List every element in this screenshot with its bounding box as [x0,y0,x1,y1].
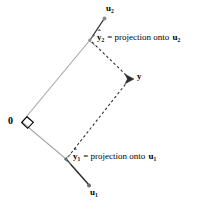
label-u1-subscript: 1 [95,192,98,198]
point-yhat1 [64,157,67,160]
projection-diagram: u2 u1 0 y ̂y2= projection ontou2 ̂y1= pr… [0,0,204,211]
point-u2-endpoint [103,17,107,21]
yhat1-hat-variable: ̂y [73,152,78,161]
label-yhat2-equation: ̂y2= projection ontou2 [97,33,180,43]
dashed-line-yhat2-to-y [92,42,128,77]
point-yhat2 [89,39,92,42]
yhat2-hat-variable: ̂y [97,33,102,42]
label-y: y [137,72,142,81]
label-yhat1-equation: ̂y1= projection ontou1 [73,152,156,162]
label-origin: 0 [8,116,13,126]
label-u1: u1 [90,188,98,198]
yhat1-onto-subscript: 1 [153,156,156,162]
axis-line-u2 [22,40,90,122]
dashed-line-yhat1-to-y [68,81,128,157]
label-u2-subscript: 2 [111,8,114,14]
yhat2-onto-subscript: 2 [177,37,180,43]
arrowhead-y [125,74,134,84]
yhat2-equation-text: = projection onto [107,32,169,42]
yhat1-equation-text: = projection onto [83,151,145,161]
label-u2: u2 [106,4,114,14]
